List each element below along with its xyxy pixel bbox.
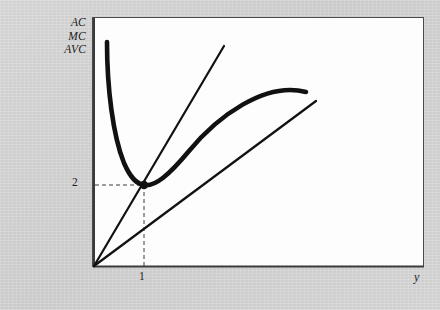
y-axis-label-mc: MC	[40, 30, 86, 44]
y-axis-label-stack: AC MC AVC	[40, 16, 86, 57]
avc-curve	[94, 101, 316, 266]
y-axis-label-avc: AVC	[40, 43, 86, 57]
mc-curve	[94, 46, 224, 266]
figure-container: AC MC AVC 2 1 y MC AC AVC	[0, 0, 440, 310]
x-tick-label-1: 1	[139, 270, 145, 282]
y-axis-label-ac: AC	[40, 16, 86, 30]
plot-frame	[92, 17, 424, 267]
cost-curves-plot	[93, 18, 425, 268]
y-tick-label-2: 2	[72, 176, 78, 188]
minimum-point-marker	[140, 181, 148, 189]
x-axis-name: y	[414, 270, 419, 285]
ac-curve	[107, 42, 306, 185]
